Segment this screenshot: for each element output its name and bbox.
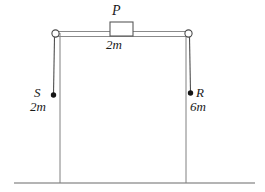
- block-p-mass-label: 2m: [106, 38, 122, 51]
- right-mass-name-label: R: [196, 86, 204, 99]
- block-p: [110, 22, 133, 36]
- left-mass-value-label: 2m: [30, 100, 46, 113]
- right-pulley-ring: [185, 30, 192, 37]
- left-mass-name-label: S: [34, 86, 41, 99]
- left-mass-dot: [51, 92, 56, 97]
- left-hanging-string: [54, 37, 55, 94]
- right-hanging-string: [190, 37, 191, 92]
- right-mass-value-label: 6m: [190, 100, 206, 113]
- left-pulley-ring: [52, 30, 59, 37]
- right-mass-dot: [188, 90, 193, 95]
- block-p-label: P: [112, 4, 121, 18]
- physics-diagram-figure: P 2m S 2m R 6m: [0, 0, 265, 192]
